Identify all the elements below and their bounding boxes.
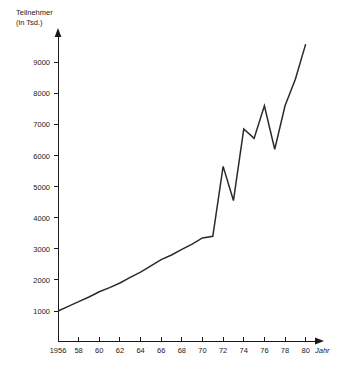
y-axis-label-line2: (in Tsd.) (16, 18, 43, 27)
x-tick-label: 76 (260, 346, 268, 355)
y-tick-label: 4000 (33, 214, 50, 223)
x-axis-label: Jahr (314, 346, 330, 355)
x-tick-group: 1956586062646668707274767880 (50, 337, 310, 355)
y-tick-label: 6000 (33, 152, 50, 161)
x-tick-label: 68 (178, 346, 186, 355)
data-series-line (58, 44, 306, 311)
y-axis-arrow-icon (55, 28, 62, 37)
x-tick-label: 66 (157, 346, 165, 355)
x-tick-label: 60 (95, 346, 103, 355)
y-tick-label: 7000 (33, 120, 50, 129)
y-axis-group (55, 28, 62, 341)
x-tick-label: 78 (281, 346, 289, 355)
y-tick-group: 100020003000400050006000700080009000 (33, 58, 58, 316)
y-tick-label: 1000 (33, 307, 50, 316)
x-tick-label: 80 (302, 346, 310, 355)
y-tick-label: 5000 (33, 183, 50, 192)
line-chart: 100020003000400050006000700080009000 195… (0, 0, 344, 371)
x-tick-label: 62 (116, 346, 124, 355)
x-tick-label: 64 (136, 346, 144, 355)
chart-container: 100020003000400050006000700080009000 195… (0, 0, 344, 371)
x-tick-label: 74 (240, 346, 248, 355)
y-tick-label: 8000 (33, 89, 50, 98)
y-tick-label: 3000 (33, 245, 50, 254)
y-tick-label: 2000 (33, 276, 50, 285)
x-tick-label: 70 (198, 346, 206, 355)
y-tick-label: 9000 (33, 58, 50, 67)
y-axis-label-line1: Teilnehmer (16, 8, 53, 17)
x-tick-label: 1956 (50, 346, 67, 355)
x-tick-label: 72 (219, 346, 227, 355)
x-axis-arrow-icon (315, 338, 324, 345)
x-tick-label: 58 (74, 346, 82, 355)
x-axis-group (58, 338, 324, 345)
